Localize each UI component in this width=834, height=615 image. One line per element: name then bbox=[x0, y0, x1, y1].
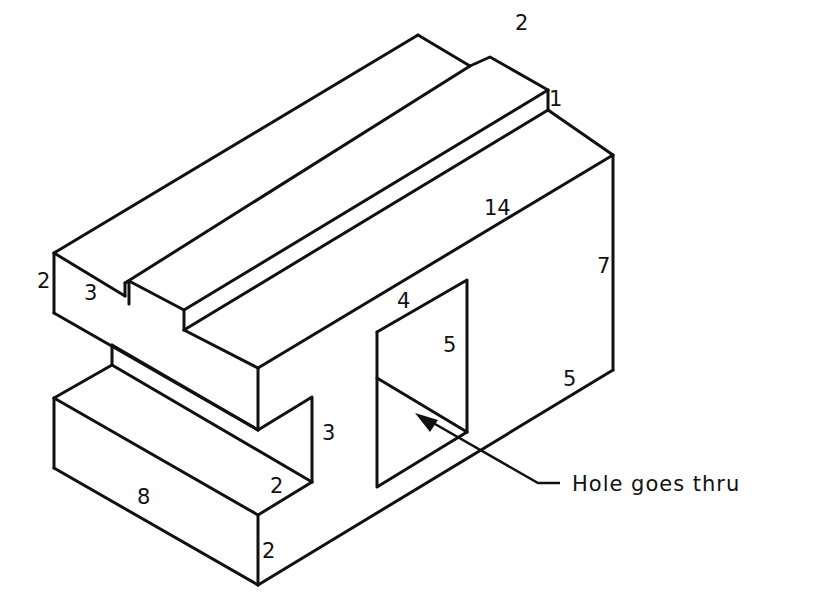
isometric-part-drawing: 2 1 14 7 2 3 4 5 5 3 2 8 2 Hole goes thr… bbox=[0, 0, 834, 615]
edge-ridge-back bbox=[470, 57, 548, 90]
edge-base-top-front bbox=[54, 398, 258, 515]
dim-hole-width: 4 bbox=[397, 289, 410, 313]
dim-base-length: 8 bbox=[137, 485, 150, 509]
edge-front-left-top bbox=[184, 330, 258, 368]
edge-front-top-long bbox=[258, 155, 613, 368]
dim-top-rail-width: 2 bbox=[515, 11, 528, 35]
dim-slot-depth: 2 bbox=[270, 474, 283, 498]
edge-top-right-end bbox=[548, 110, 613, 155]
dim-slot-height: 3 bbox=[322, 421, 335, 445]
dim-right-depth: 5 bbox=[563, 367, 576, 391]
through-hole bbox=[377, 280, 467, 487]
dim-right-height: 7 bbox=[597, 254, 610, 278]
dim-overall-length: 14 bbox=[484, 196, 511, 220]
dim-base-height: 2 bbox=[262, 539, 275, 563]
edge-base-bottom bbox=[54, 468, 258, 585]
edge-slot-floor-back bbox=[112, 365, 312, 482]
edge-base-top-left bbox=[54, 365, 112, 398]
dim-left-notch-width: 3 bbox=[84, 281, 97, 305]
hole-note-label: Hole goes thru bbox=[572, 472, 740, 496]
edge-left-notch-top bbox=[129, 281, 184, 310]
dimension-labels: 2 1 14 7 2 3 4 5 5 3 2 8 2 bbox=[37, 11, 610, 563]
slot-edges bbox=[112, 345, 312, 482]
edge-left-notch bbox=[125, 281, 129, 304]
upper-block-edges bbox=[54, 35, 613, 430]
edge-rail-left bbox=[125, 66, 470, 283]
dim-left-top-height: 2 bbox=[37, 269, 50, 293]
edge-base-top-right bbox=[258, 482, 312, 515]
edge-slot-back bbox=[258, 397, 312, 482]
arrow-head-icon bbox=[415, 413, 438, 432]
dim-top-step-height: 1 bbox=[549, 87, 562, 111]
hole-inner-edge bbox=[377, 378, 467, 432]
leader-line bbox=[428, 420, 560, 483]
dim-hole-height: 5 bbox=[443, 333, 456, 357]
edge-rail-back-end bbox=[418, 35, 470, 66]
hole-leader bbox=[415, 413, 560, 483]
